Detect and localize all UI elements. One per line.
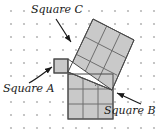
grid-dot	[10, 75, 12, 77]
square-a-arrow	[29, 67, 52, 83]
grid-dot	[23, 62, 25, 64]
grid-dot	[140, 23, 142, 25]
grid-dot	[62, 88, 64, 90]
grid-dot	[23, 36, 25, 38]
grid-dot	[49, 49, 51, 51]
grid-dot	[49, 36, 51, 38]
grid-dot	[36, 62, 38, 64]
grid-dot	[153, 127, 155, 129]
grid-dot	[75, 36, 77, 38]
grid-dot	[10, 10, 12, 12]
grid-dot	[23, 49, 25, 51]
grid-dot	[127, 62, 129, 64]
grid-dot	[10, 101, 12, 103]
grid-dot	[10, 49, 12, 51]
grid-dot	[10, 23, 12, 25]
grid-dot	[114, 88, 116, 90]
geometry-figure: Square C Square A Square B	[0, 0, 164, 131]
grid-dot	[114, 127, 116, 129]
grid-dot	[23, 23, 25, 25]
grid-dot	[140, 49, 142, 51]
grid-dot	[62, 49, 64, 51]
grid-dot	[49, 127, 51, 129]
diagram-canvas: Square C Square A Square B	[0, 0, 164, 131]
grid-dot	[10, 114, 12, 116]
grid-dot	[153, 101, 155, 103]
grid-dot	[75, 49, 77, 51]
grid-dot	[49, 75, 51, 77]
grid-dot	[36, 114, 38, 116]
grid-dot	[88, 127, 90, 129]
grid-dot	[140, 127, 142, 129]
grid-dot	[23, 127, 25, 129]
square-a-shape	[54, 59, 68, 73]
grid-dot	[140, 36, 142, 38]
grid-dot	[36, 49, 38, 51]
grid-dot	[114, 23, 116, 25]
grid-dot	[75, 127, 77, 129]
grid-dot	[49, 62, 51, 64]
grid-dot	[49, 101, 51, 103]
square-b-label-text: Square B	[104, 104, 156, 117]
grid-dot	[36, 101, 38, 103]
grid-dot	[49, 114, 51, 116]
grid-dot	[23, 75, 25, 77]
grid-dot	[127, 101, 129, 103]
grid-dot	[62, 114, 64, 116]
grid-dot	[62, 36, 64, 38]
grid-dot	[23, 10, 25, 12]
grid-dot	[62, 23, 64, 25]
grid-dot	[140, 75, 142, 77]
grid-dot	[75, 23, 77, 25]
grid-dot	[62, 101, 64, 103]
grid-dot	[101, 127, 103, 129]
grid-dot	[101, 10, 103, 12]
grid-dot	[10, 62, 12, 64]
grid-dot	[127, 88, 129, 90]
grid-dot	[127, 10, 129, 12]
square-a-label-text: Square A	[3, 82, 54, 95]
grid-dot	[153, 88, 155, 90]
grid-dot	[140, 101, 142, 103]
grid-dot	[153, 10, 155, 12]
grid-dot	[127, 127, 129, 129]
grid-dot	[88, 10, 90, 12]
label-square-a: Square A	[3, 67, 54, 95]
grid-dot	[23, 101, 25, 103]
grid-dot	[10, 127, 12, 129]
grid-dot	[140, 10, 142, 12]
grid-dot	[140, 62, 142, 64]
grid-dot	[36, 36, 38, 38]
grid-dot	[10, 36, 12, 38]
square-a-outline	[54, 59, 68, 73]
grid-dot	[62, 75, 64, 77]
grid-dot	[114, 10, 116, 12]
grid-dot	[23, 114, 25, 116]
grid-dot	[153, 49, 155, 51]
grid-dot	[153, 36, 155, 38]
square-c-arrow	[56, 19, 71, 42]
grid-dot	[153, 75, 155, 77]
grid-dot	[36, 127, 38, 129]
grid-dot	[140, 88, 142, 90]
grid-dot	[114, 101, 116, 103]
grid-dot	[49, 23, 51, 25]
grid-dot	[127, 23, 129, 25]
grid-dot	[36, 23, 38, 25]
grid-dot	[153, 23, 155, 25]
grid-dot	[62, 127, 64, 129]
grid-dot	[127, 75, 129, 77]
grid-dot	[153, 62, 155, 64]
square-c-label-text: Square C	[31, 3, 83, 16]
